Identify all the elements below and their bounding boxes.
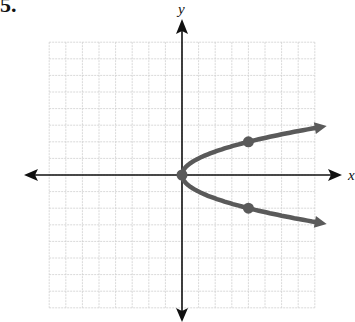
y-axis-label: y (176, 1, 185, 17)
curve-arrow-icon (314, 122, 327, 134)
data-point (243, 136, 254, 147)
upper-branch (182, 128, 317, 175)
x-axis-label: x (347, 167, 355, 183)
curve-arrow-icon (314, 216, 327, 228)
data-point (243, 203, 254, 214)
data-point (177, 170, 188, 181)
lower-branch (182, 175, 317, 222)
parabola-graph: y x (0, 0, 355, 322)
